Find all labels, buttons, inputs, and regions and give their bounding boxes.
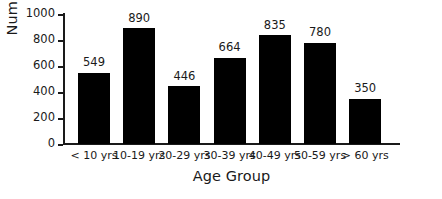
bar-column: 890 — [123, 14, 155, 144]
bar-value-label: 890 — [128, 13, 150, 25]
y-axis-tick-mark — [58, 14, 63, 16]
bar-value-label: 835 — [264, 20, 286, 32]
bar — [78, 73, 110, 144]
y-axis-tick-label: 400 — [33, 86, 55, 98]
bar — [168, 86, 200, 144]
x-axis-tick-label: 50-59 yrs — [294, 150, 346, 161]
x-axis-title: Age Group — [63, 168, 400, 184]
y-axis-tick-mark — [58, 66, 63, 68]
bar-chart-figure: Number 02004006008001000 549890446664835… — [0, 0, 442, 199]
bar-column: 350 — [349, 14, 381, 144]
bar-value-label: 350 — [354, 83, 376, 95]
bar-column: 780 — [304, 14, 336, 144]
y-axis-tick-mark — [58, 92, 63, 94]
y-axis-tick-label: 800 — [33, 34, 55, 46]
y-axis-title: Number — [2, 0, 22, 56]
y-axis-tick-label: 200 — [33, 112, 55, 124]
y-axis-tick-label: 600 — [33, 60, 55, 72]
x-axis-tick-label: > 60 yrs — [342, 150, 389, 161]
y-axis-tick-mark — [58, 40, 63, 42]
bar — [349, 99, 381, 145]
bar — [214, 58, 246, 144]
plot-area: 02004006008001000 549890446664835780350 — [63, 14, 400, 144]
y-axis-tick-label: 1000 — [26, 8, 55, 20]
bar-value-label: 780 — [309, 27, 331, 39]
x-axis-tick-label: < 10 yrs — [71, 150, 118, 161]
bar-value-label: 446 — [173, 71, 195, 83]
bar-column: 835 — [259, 14, 291, 144]
bar — [259, 35, 291, 144]
y-axis-tick-mark — [58, 118, 63, 120]
bar-column: 664 — [214, 14, 246, 144]
bar — [304, 43, 336, 144]
y-axis-tick-mark — [58, 144, 63, 146]
bar — [123, 28, 155, 144]
bar-value-label: 549 — [83, 57, 105, 69]
bar-value-label: 664 — [219, 42, 241, 54]
y-axis-tick-label: 0 — [48, 138, 55, 150]
bar-column: 446 — [168, 14, 200, 144]
bar-column: 549 — [78, 14, 110, 144]
